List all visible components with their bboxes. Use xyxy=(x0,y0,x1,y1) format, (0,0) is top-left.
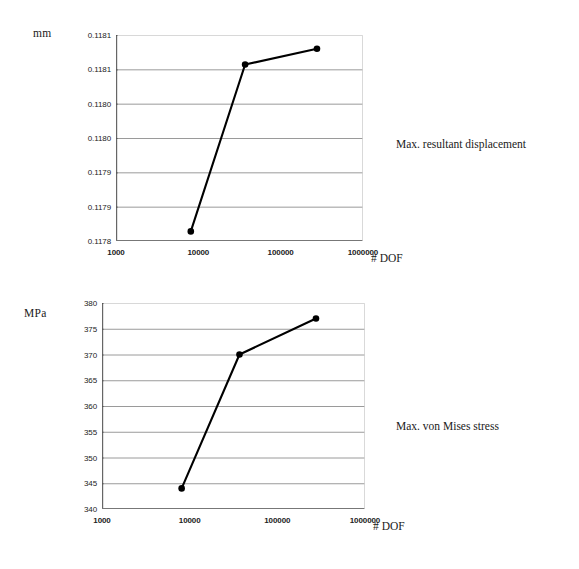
y-tick-label: 0.1180 xyxy=(73,134,111,143)
chart-caption-stress: Max. von Mises stress xyxy=(396,420,499,432)
y-tick-label: 375 xyxy=(59,324,97,333)
x-tick-label: 100000 xyxy=(268,248,294,257)
y-tick-label: 0.1181 xyxy=(73,31,111,40)
y-tick-label: 350 xyxy=(59,453,97,462)
data-point-marker xyxy=(178,485,185,492)
data-point-marker xyxy=(242,61,249,68)
y-tick-label: 360 xyxy=(59,402,97,411)
chart-max-von-mises-stress: MPa 340345350355360365370375380 10001000… xyxy=(0,284,579,569)
data-point-marker xyxy=(314,45,321,52)
series-line xyxy=(182,318,316,488)
chart-max-resultant-displacement: mm 0.11780.11790.11790.11800.11800.11810… xyxy=(0,0,579,285)
plot-canvas-displacement xyxy=(116,35,363,241)
y-tick-label: 0.1181 xyxy=(73,65,111,74)
chart-caption-displacement: Max. resultant displacement xyxy=(396,138,526,150)
y-tick-label: 370 xyxy=(59,350,97,359)
y-tick-label: 355 xyxy=(59,427,97,436)
y-tick-label: 340 xyxy=(59,505,97,514)
data-point-marker xyxy=(236,351,243,358)
y-tick-label: 0.1178 xyxy=(73,237,111,246)
y-tick-label: 0.1179 xyxy=(73,202,111,211)
x-tick-label: 100000 xyxy=(264,516,290,525)
plot-area-displacement xyxy=(116,35,363,241)
y-tick-label: 365 xyxy=(59,376,97,385)
y-tick-label: 345 xyxy=(59,479,97,488)
x-tick-label: 1000 xyxy=(107,248,124,257)
data-point-marker xyxy=(188,228,195,235)
plot-area-stress xyxy=(102,303,365,509)
x-axis-label-displacement: # DOF xyxy=(371,252,403,264)
plot-canvas-stress xyxy=(102,303,365,509)
data-point-marker xyxy=(313,315,320,322)
y-tick-label: 0.1180 xyxy=(73,99,111,108)
y-tick-label: 0.1179 xyxy=(73,168,111,177)
series-line xyxy=(191,49,317,232)
y-unit-label: mm xyxy=(33,27,52,39)
x-tick-label: 1000 xyxy=(93,516,110,525)
y-unit-label: MPa xyxy=(24,307,47,319)
x-tick-label: 10000 xyxy=(187,248,209,257)
y-tick-label: 380 xyxy=(59,299,97,308)
x-tick-label: 10000 xyxy=(179,516,201,525)
x-axis-label-stress: # DOF xyxy=(373,520,405,532)
